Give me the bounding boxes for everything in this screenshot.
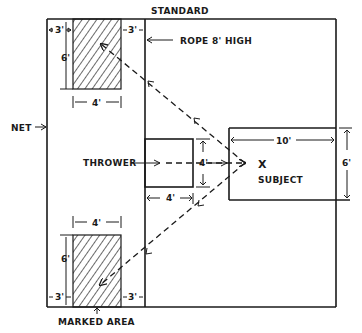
top-left-gap-label: 3'	[55, 25, 64, 35]
marked-area-label: MARKED AREA	[58, 317, 135, 327]
standard-label: STANDARD	[151, 6, 209, 16]
net-label: NET	[11, 123, 32, 133]
thrower-dimensions	[147, 139, 210, 204]
bottom-marked-area	[73, 235, 121, 307]
subject-dimensions	[231, 128, 352, 198]
bottom-left-gap-label: 3'	[55, 292, 64, 302]
net-pointer	[35, 124, 46, 130]
thrower-label: THROWER	[83, 158, 136, 168]
rope-label: ROPE 8' HIGH	[180, 36, 252, 46]
bottom-right-gap-label: 3'	[128, 292, 137, 302]
path-arrow-mid-bottom	[198, 200, 204, 206]
subject-height-label: 6'	[342, 158, 351, 168]
subject-x-mark: X	[258, 158, 267, 171]
top-height-label: 6'	[61, 53, 70, 63]
top-width-label: 4'	[92, 98, 101, 108]
thrower-height-label: 4'	[199, 158, 208, 168]
field-diagram: 3' 3' 6' 4' 4' 6' 3' 3' 4' 4' 10' 6' STA…	[0, 0, 362, 333]
top-right-gap-label: 3'	[128, 25, 137, 35]
thrower-width-label: 4'	[166, 193, 175, 203]
subject-width-label: 10'	[276, 136, 291, 146]
bottom-width-label: 4'	[92, 218, 101, 228]
bottom-height-label: 6'	[61, 254, 70, 264]
path-arrow-bottom	[146, 248, 152, 254]
entry-arrow	[208, 160, 227, 166]
marked-area-pointer	[94, 308, 100, 314]
subject-label: SUBJECT	[258, 175, 304, 185]
rope-pointer	[147, 37, 173, 43]
